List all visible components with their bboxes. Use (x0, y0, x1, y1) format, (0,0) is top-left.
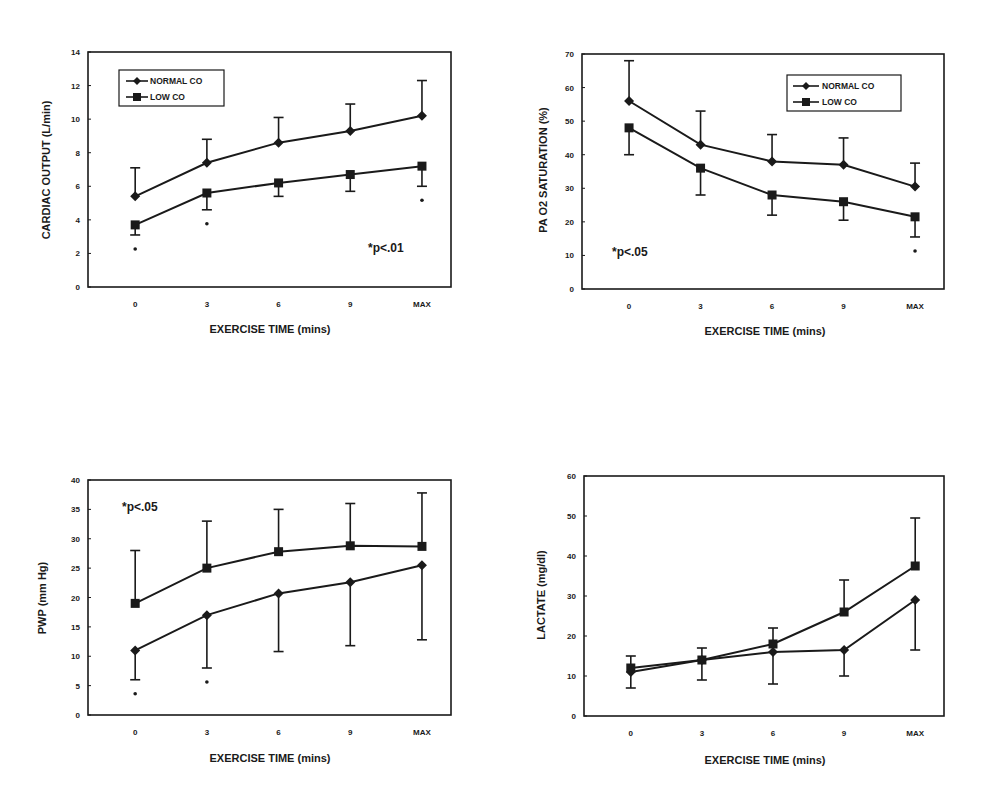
y-tick-label: 10 (567, 672, 576, 681)
chart-lactate-svg: LACTATE (mg/dl) EXERCISE TIME (mins) 010… (0, 0, 991, 799)
y-tick-label: 30 (567, 592, 576, 601)
y-tick-label: 40 (567, 552, 576, 561)
y-tick-label: 0 (572, 712, 577, 721)
y-tick-label: 50 (567, 512, 576, 521)
chart-lactate: LACTATE (mg/dl) EXERCISE TIME (mins) 010… (0, 0, 991, 799)
y-axis-label: LACTATE (mg/dl) (535, 550, 547, 640)
y-tick-label: 20 (567, 632, 576, 641)
x-tick-label: MAX (906, 729, 924, 738)
plot-frame (584, 476, 944, 716)
x-tick-label: 0 (629, 729, 634, 738)
x-tick-label: 3 (700, 729, 705, 738)
plot-area: 01020304050600369MAX (567, 472, 944, 738)
x-axis-label: EXERCISE TIME (mins) (704, 754, 825, 766)
square-marker-icon (911, 562, 920, 571)
x-tick-label: 6 (771, 729, 776, 738)
square-marker-icon (840, 608, 849, 617)
x-tick-label: 9 (842, 729, 847, 738)
y-tick-label: 60 (567, 472, 576, 481)
